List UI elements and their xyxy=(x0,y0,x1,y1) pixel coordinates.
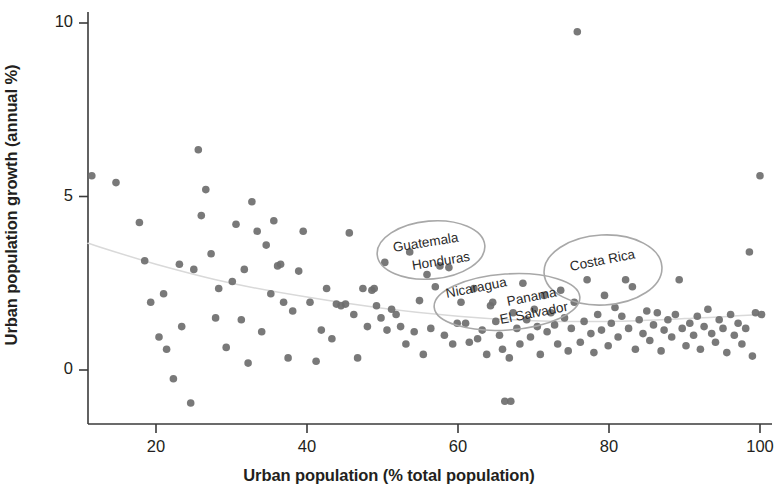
data-point xyxy=(660,326,668,334)
data-point xyxy=(557,286,565,294)
data-point xyxy=(176,260,184,268)
data-point xyxy=(489,299,497,307)
data-point xyxy=(708,330,716,338)
data-point xyxy=(635,316,643,324)
data-point xyxy=(318,326,326,334)
scatter-plot-figure: Urban population growth (annual %) Urban… xyxy=(0,0,778,497)
data-point xyxy=(537,351,545,359)
data-point xyxy=(267,290,275,298)
data-point xyxy=(643,307,651,315)
data-point xyxy=(668,333,676,341)
data-point xyxy=(590,349,598,357)
data-point xyxy=(672,311,680,319)
data-point xyxy=(397,323,405,331)
data-point xyxy=(580,318,588,326)
data-point xyxy=(229,278,237,286)
data-point xyxy=(441,332,449,340)
data-point xyxy=(280,299,288,307)
data-points xyxy=(88,28,765,407)
data-point xyxy=(614,333,622,341)
data-point xyxy=(694,312,702,320)
data-point xyxy=(697,345,705,353)
y-axis-ticks xyxy=(79,23,88,370)
data-point xyxy=(601,292,609,300)
data-point xyxy=(639,330,647,338)
data-point xyxy=(383,326,391,334)
data-point xyxy=(519,280,527,288)
data-point xyxy=(686,319,694,327)
data-point xyxy=(675,276,683,284)
y-tick-label: 0 xyxy=(13,359,73,378)
annotation-ellipse-guatemala-honduras xyxy=(375,216,488,283)
data-point xyxy=(342,300,350,308)
data-point xyxy=(604,342,612,350)
x-tick-label: 20 xyxy=(126,437,186,456)
data-point xyxy=(496,332,504,340)
data-point xyxy=(457,299,465,307)
data-point xyxy=(466,338,474,346)
data-point xyxy=(420,351,428,359)
data-point xyxy=(646,337,654,345)
data-point xyxy=(299,227,307,235)
data-point xyxy=(359,285,367,293)
data-point xyxy=(195,146,203,154)
data-point xyxy=(277,260,285,268)
data-point xyxy=(377,314,385,322)
data-point xyxy=(312,358,320,366)
data-point xyxy=(650,321,658,329)
data-point xyxy=(657,347,665,355)
data-point xyxy=(328,335,336,343)
data-point xyxy=(727,311,735,319)
data-point xyxy=(462,319,470,327)
data-point xyxy=(734,319,742,327)
data-point xyxy=(262,241,270,249)
data-point xyxy=(141,257,149,265)
data-point xyxy=(568,325,576,333)
data-point xyxy=(410,328,418,336)
data-point xyxy=(527,333,535,341)
data-point xyxy=(543,328,551,336)
data-point xyxy=(492,318,500,326)
data-point xyxy=(212,314,220,322)
data-point xyxy=(690,332,698,340)
data-point xyxy=(756,172,764,180)
data-point xyxy=(664,316,672,324)
data-point xyxy=(373,302,381,310)
data-point xyxy=(583,276,591,284)
data-point xyxy=(295,267,303,275)
data-point xyxy=(215,285,223,293)
data-point xyxy=(136,219,144,227)
data-point xyxy=(244,359,252,367)
data-point xyxy=(622,276,630,284)
data-point xyxy=(284,354,292,362)
data-point xyxy=(270,217,278,225)
data-point xyxy=(258,328,266,336)
data-point xyxy=(587,330,595,338)
data-point xyxy=(554,340,562,348)
data-point xyxy=(704,306,712,314)
data-point xyxy=(742,325,750,333)
data-point xyxy=(594,311,602,319)
data-point xyxy=(190,266,198,274)
x-tick-label: 40 xyxy=(277,437,337,456)
data-point xyxy=(449,340,457,348)
data-point xyxy=(238,316,246,324)
data-point xyxy=(758,311,766,319)
data-point xyxy=(354,354,362,362)
data-point xyxy=(432,283,440,291)
data-point xyxy=(178,323,186,331)
axes xyxy=(79,12,772,433)
data-point xyxy=(678,325,686,333)
y-axis-title: Urban population growth (annual %) xyxy=(2,5,32,405)
y-tick-label: 5 xyxy=(13,186,73,205)
data-point xyxy=(155,333,163,341)
x-tick-label: 80 xyxy=(579,437,639,456)
x-axis-ticks xyxy=(156,424,760,433)
data-point xyxy=(253,227,261,235)
data-point xyxy=(207,250,215,258)
data-point xyxy=(749,352,757,360)
data-point xyxy=(746,248,754,256)
data-point xyxy=(723,349,731,357)
data-point xyxy=(392,311,400,319)
data-point xyxy=(170,375,178,383)
